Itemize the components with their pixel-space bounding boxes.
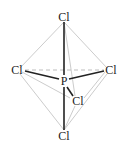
atom-cl-front: Cl xyxy=(72,94,84,108)
molecule-svg: Cl Cl Cl P Cl Cl xyxy=(0,0,128,153)
atom-cl-right: Cl xyxy=(105,63,117,77)
pcl5-diagram: Cl Cl Cl P Cl Cl xyxy=(0,0,128,153)
atom-cl-left: Cl xyxy=(11,63,23,77)
atom-cl-top: Cl xyxy=(58,10,70,24)
atom-p-central: P xyxy=(61,74,68,88)
atom-cl-bottom: Cl xyxy=(58,129,70,143)
